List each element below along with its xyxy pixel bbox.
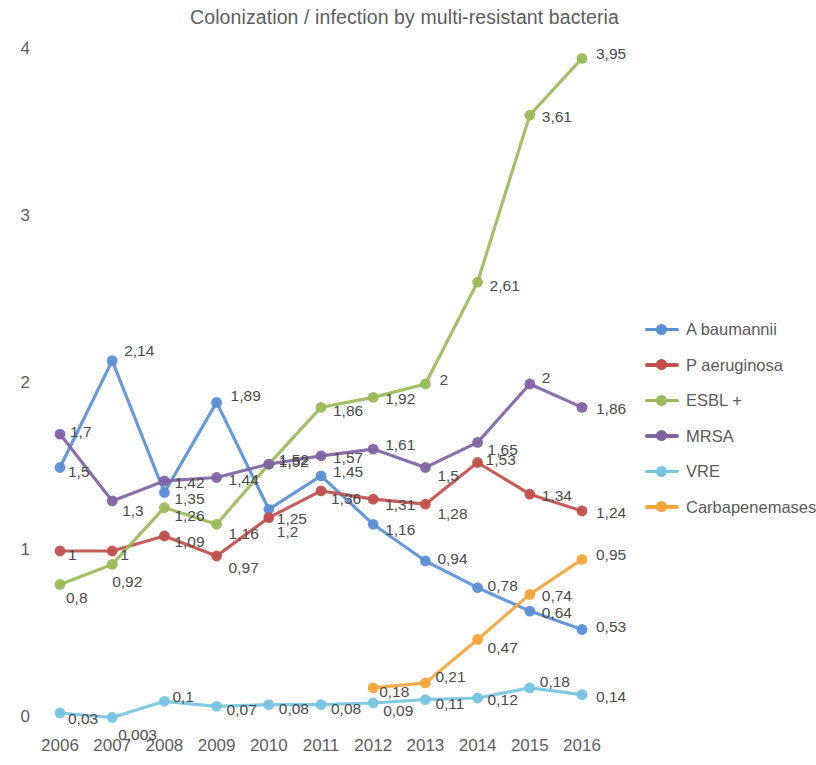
data-label: 1,2 <box>277 524 299 540</box>
data-label: 0,1 <box>172 689 194 705</box>
data-point-marker <box>107 712 118 723</box>
data-point-marker <box>316 486 327 497</box>
legend-item-mrsa[interactable]: MRSA <box>645 419 809 455</box>
data-label: 2,14 <box>124 343 154 359</box>
data-point-marker <box>368 444 379 455</box>
data-label: 1 <box>68 547 77 563</box>
data-point-marker <box>55 546 66 557</box>
data-point-marker <box>316 471 327 482</box>
data-label: 0,64 <box>542 605 572 621</box>
legend-item-p-aeruginosa[interactable]: P aeruginosa <box>645 348 809 384</box>
data-label: 0,97 <box>229 560 259 576</box>
data-label: 2,61 <box>490 278 520 294</box>
data-point-marker <box>368 683 379 694</box>
legend-swatch-icon <box>645 429 679 443</box>
data-label: 1,86 <box>596 401 626 417</box>
x-axis-tick-2012: 2012 <box>343 736 403 756</box>
data-label: 1,5 <box>437 468 459 484</box>
data-point-marker <box>211 472 222 483</box>
data-label: 1,09 <box>174 534 204 550</box>
y-axis-tick-2: 2 <box>0 373 30 393</box>
data-point-marker <box>368 494 379 505</box>
data-label: 1,24 <box>596 505 626 521</box>
data-label: 0,08 <box>331 701 361 717</box>
data-point-marker <box>368 519 379 530</box>
legend-item-esbl[interactable]: ESBL + <box>645 383 809 419</box>
data-point-marker <box>524 606 535 617</box>
data-point-marker <box>159 487 170 498</box>
data-label: 0,14 <box>596 689 626 705</box>
data-label: 0,18 <box>540 674 570 690</box>
data-point-marker <box>472 457 483 468</box>
data-point-marker <box>211 701 222 712</box>
data-point-marker <box>107 559 118 570</box>
data-label: 1,16 <box>229 526 259 542</box>
data-point-marker <box>577 689 588 700</box>
legend-label: ESBL + <box>679 391 742 410</box>
x-axis-tick-2010: 2010 <box>239 736 299 756</box>
series-line-carbapenemases <box>373 559 582 688</box>
data-label: 1,42 <box>174 475 204 491</box>
data-label: 0,78 <box>488 578 518 594</box>
y-axis-tick-3: 3 <box>0 206 30 226</box>
data-label: 0,11 <box>435 696 464 712</box>
data-label: 1 <box>120 547 129 563</box>
data-label: 1,57 <box>333 450 363 466</box>
data-point-marker <box>420 556 431 567</box>
legend-label: VRE <box>679 462 720 481</box>
data-point-marker <box>55 579 66 590</box>
data-point-marker <box>420 379 431 390</box>
data-point-marker <box>472 437 483 448</box>
data-point-marker <box>263 459 274 470</box>
data-label: 0,74 <box>542 588 572 604</box>
data-label: 1,34 <box>542 488 572 504</box>
x-axis-tick-2006: 2006 <box>30 736 90 756</box>
data-label: 0,08 <box>279 701 309 717</box>
data-label: 1,35 <box>174 491 204 507</box>
data-point-marker <box>107 496 118 507</box>
legend-swatch-icon <box>645 500 679 514</box>
data-label: 1,45 <box>333 464 363 480</box>
legend-label: MRSA <box>679 427 734 446</box>
legend-label: Carbapenemases <box>679 498 816 517</box>
legend-item-vre[interactable]: VRE <box>645 454 809 490</box>
y-axis-tick-4: 4 <box>0 39 30 59</box>
data-point-marker <box>420 499 431 510</box>
data-point-marker <box>211 397 222 408</box>
data-point-marker <box>211 551 222 562</box>
data-label: 3,61 <box>542 109 572 125</box>
data-label: 1,3 <box>122 503 144 519</box>
data-label: 1,92 <box>385 391 415 407</box>
chart-legend: A baumanniiP aeruginosaESBL +MRSAVRECarb… <box>645 312 809 525</box>
y-axis-tick-0: 0 <box>0 707 30 727</box>
data-label: 0,53 <box>596 619 626 635</box>
legend-swatch-icon <box>645 358 679 372</box>
legend-item-a-baumannii[interactable]: A baumannii <box>645 312 809 348</box>
x-axis-tick-2013: 2013 <box>395 736 455 756</box>
data-label: 1,89 <box>231 388 261 404</box>
data-point-marker <box>420 694 431 705</box>
legend-label: A baumannii <box>679 320 777 339</box>
data-point-marker <box>420 678 431 689</box>
data-point-marker <box>159 696 170 707</box>
x-axis-tick-2016: 2016 <box>552 736 612 756</box>
data-point-marker <box>159 476 170 487</box>
data-point-marker <box>472 634 483 645</box>
data-label: 0,95 <box>596 547 626 563</box>
data-label: 3,95 <box>596 46 626 62</box>
legend-label: P aeruginosa <box>679 356 783 375</box>
data-point-marker <box>472 277 483 288</box>
data-label: 0,18 <box>379 684 409 700</box>
data-point-marker <box>55 462 66 473</box>
data-label: 0,21 <box>435 669 465 685</box>
legend-item-carbapenemases[interactable]: Carbapenemases <box>645 490 809 526</box>
data-label: 1,31 <box>385 497 415 513</box>
data-point-marker <box>524 489 535 500</box>
data-label: 2 <box>542 370 551 386</box>
data-point-marker <box>55 708 66 719</box>
data-label: 0,07 <box>227 702 257 718</box>
data-point-marker <box>159 531 170 542</box>
data-point-marker <box>420 462 431 473</box>
data-point-marker <box>577 402 588 413</box>
data-point-marker <box>577 506 588 517</box>
